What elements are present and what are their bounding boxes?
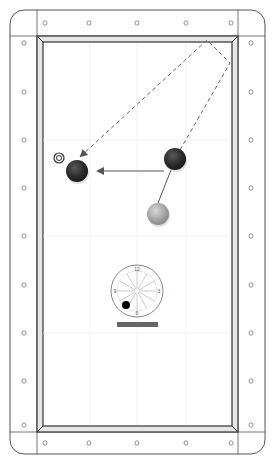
cue-ball [147,203,169,225]
clock-label-6: 6 [136,310,139,316]
pool-diagram: 12 3 6 9 [0,0,275,464]
clock-label-12: 12 [134,266,140,272]
clock-label-3: 3 [158,288,161,294]
object-ball-1 [66,160,88,182]
object-ball-2 [164,148,186,170]
cue-stick-bar [117,322,158,327]
pool-table: 12 3 6 9 [0,0,275,464]
clock-label-9: 9 [114,288,117,294]
cue-tip-dot [122,301,130,309]
cushions [37,36,238,432]
